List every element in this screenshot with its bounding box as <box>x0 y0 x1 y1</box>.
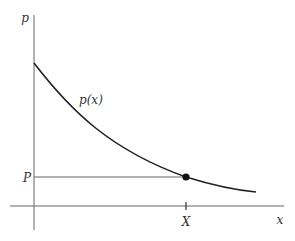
equilibrium-point <box>182 173 189 180</box>
demand-curve <box>34 63 256 192</box>
y-axis-label: p <box>21 11 29 25</box>
curve-label: p(x) <box>79 93 103 107</box>
demand-diagram: p p(x) P X x <box>0 0 295 241</box>
price-label: P <box>22 171 32 185</box>
x-axis-label: x <box>277 213 284 227</box>
quantity-label: X <box>181 215 191 229</box>
